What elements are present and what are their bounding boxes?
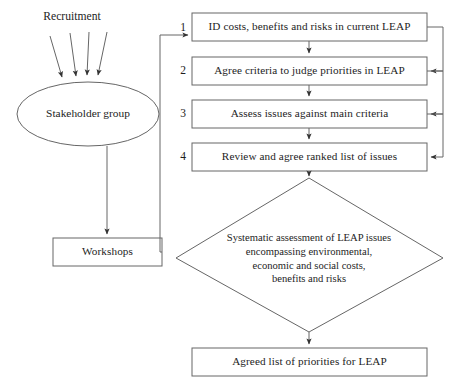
step-1-number: 1 xyxy=(172,21,186,35)
recruitment-label: Recruitment xyxy=(24,10,120,24)
decision-label: Systematic assessment of LEAP issues enc… xyxy=(199,231,419,286)
step-1-label: ID costs, benefits and risks in current … xyxy=(192,20,427,33)
workshops-label: Workshops xyxy=(53,245,162,258)
recruitment-arrow-4 xyxy=(98,32,107,75)
feedback-loop-step3-to-step4 xyxy=(427,114,443,157)
step-3-number: 3 xyxy=(172,107,186,121)
stakeholder-group-label: Stakeholder group xyxy=(18,107,158,120)
step-2-number: 2 xyxy=(172,64,186,78)
step-3-label: Assess issues against main criteria xyxy=(192,107,427,120)
step-2-label: Agree criteria to judge priorities in LE… xyxy=(192,64,427,77)
recruitment-arrow-group xyxy=(50,32,107,77)
step-4-number: 4 xyxy=(172,150,186,164)
recruitment-arrow-1 xyxy=(50,36,62,77)
feedback-loop-step2-to-step3 xyxy=(427,71,443,114)
outcome-label: Agreed list of priorities for LEAP xyxy=(192,355,427,368)
flowchart-vector-layer xyxy=(0,0,454,391)
recruitment-arrow-3 xyxy=(87,32,89,75)
step-4-label: Review and agree ranked list of issues xyxy=(192,150,427,163)
feedback-loop-step1-to-step2 xyxy=(427,27,443,71)
recruitment-arrow-2 xyxy=(70,33,76,76)
flowchart-canvas: Recruitment Stakeholder group Workshops … xyxy=(0,0,454,391)
